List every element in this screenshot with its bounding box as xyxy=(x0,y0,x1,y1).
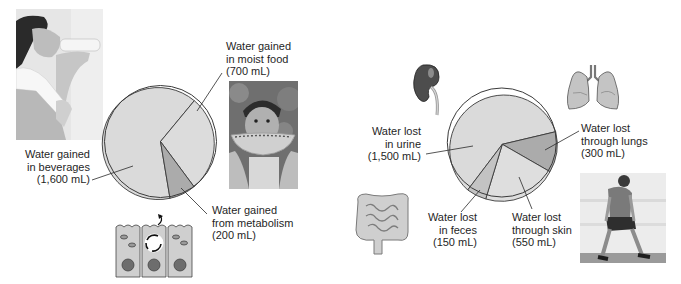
cells-metabolism-illustration xyxy=(114,213,199,279)
label-skin: Water lost through skin (550 mL) xyxy=(512,211,572,249)
water-gain-pie-chart xyxy=(0,0,681,284)
label-feces: Water lost in feces (150 mL) xyxy=(422,211,477,249)
intestines-illustration xyxy=(352,188,412,256)
tired-athlete-photo xyxy=(580,173,666,263)
label-urine: Water lost in urine (1,500 mL) xyxy=(366,125,421,163)
boy-eating-watermelon-photo xyxy=(229,81,298,189)
label-metabolism: Water gained from metabolism (200 mL) xyxy=(212,204,293,242)
kidney-illustration xyxy=(413,63,445,117)
label-lungs: Water lost through lungs (300 mL) xyxy=(581,122,648,160)
leader-line-feces xyxy=(461,190,480,212)
label-beverages: Water gained in beverages (1,600 mL) xyxy=(24,148,90,186)
label-moist-food: Water gained in moist food (700 mL) xyxy=(226,40,291,78)
lungs-illustration xyxy=(565,63,621,111)
leader-line-moist-food xyxy=(197,73,222,111)
leader-line-metabolism xyxy=(181,188,207,214)
